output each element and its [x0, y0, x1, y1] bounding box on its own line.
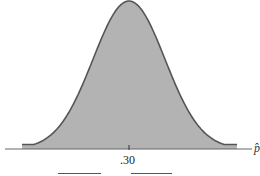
x-axis-label: p̂	[254, 141, 260, 156]
answer-blank-right[interactable]	[131, 173, 172, 174]
answer-blank-left[interactable]	[58, 173, 101, 174]
shaded-area	[22, 1, 237, 149]
center-tick-label: .30	[120, 153, 135, 168]
normal-curve-chart	[0, 0, 260, 176]
